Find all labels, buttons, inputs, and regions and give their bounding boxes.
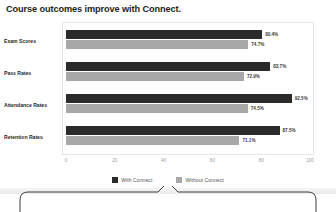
bar-primary[interactable] — [66, 62, 270, 71]
x-tick-label: 40 — [161, 158, 166, 163]
legend-item-with-connect[interactable]: With Connect — [112, 177, 152, 183]
bar-secondary[interactable] — [66, 136, 239, 145]
bar-group: Attendance Rates92.5%74.5% — [0, 90, 336, 120]
bar-value-label: 92.5% — [295, 94, 308, 103]
bar-value-label: 80.4% — [265, 30, 278, 39]
bar-value-label: 74.7% — [251, 40, 264, 49]
bars-container: 80.4%74.7% — [66, 26, 310, 56]
legend-swatch-icon — [176, 177, 182, 183]
chart-title: Course outcomes improve with Connect. — [6, 4, 181, 14]
legend-item-without-connect[interactable]: Without Connect — [176, 177, 223, 183]
bar-value-label: 71.1% — [242, 136, 255, 145]
bar-chart: Course outcomes improve with Connect. Ex… — [0, 0, 336, 212]
bar-primary[interactable] — [66, 30, 262, 39]
category-label: Exam Scores — [4, 26, 60, 56]
category-label: Attendance Rates — [4, 90, 60, 120]
bar-primary[interactable] — [66, 126, 280, 135]
bars-container: 92.5%74.5% — [66, 90, 310, 120]
bar-value-label: 83.7% — [273, 62, 286, 71]
bar-group: Retention Rates87.5%71.1% — [0, 122, 336, 152]
x-tick-label: 20 — [112, 158, 117, 163]
bars-container: 87.5%71.1% — [66, 122, 310, 152]
bar-secondary[interactable] — [66, 72, 244, 81]
x-axis: 020406080100 — [62, 158, 314, 170]
x-tick-label: 100 — [306, 158, 314, 163]
x-tick-label: 60 — [210, 158, 215, 163]
bar-secondary[interactable] — [66, 104, 248, 113]
chart-legend: With ConnectWithout Connect — [0, 174, 336, 186]
category-label: Retention Rates — [4, 122, 60, 152]
bar-value-label: 87.5% — [283, 126, 296, 135]
bar-secondary[interactable] — [66, 40, 248, 49]
x-tick-label: 0 — [65, 158, 68, 163]
bar-group: Pass Rates83.7%72.9% — [0, 58, 336, 88]
legend-label: With Connect — [121, 177, 152, 183]
category-label: Pass Rates — [4, 58, 60, 88]
callout-band — [0, 188, 336, 194]
legend-label: Without Connect — [185, 177, 223, 183]
bar-value-label: 74.5% — [251, 104, 264, 113]
bars-container: 83.7%72.9% — [66, 58, 310, 88]
legend-swatch-icon — [112, 177, 118, 183]
x-tick-label: 80 — [259, 158, 264, 163]
bar-group: Exam Scores80.4%74.7% — [0, 26, 336, 56]
bar-value-label: 72.9% — [247, 72, 260, 81]
bar-primary[interactable] — [66, 94, 292, 103]
